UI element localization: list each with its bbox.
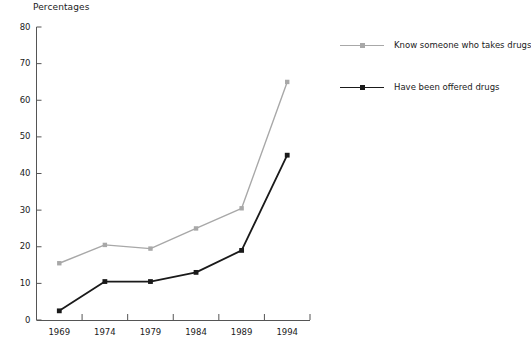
y-axis-tick-label: 70 (11, 58, 31, 68)
y-axis-tick-label: 80 (11, 22, 31, 32)
y-axis-tick-label: 10 (11, 278, 31, 288)
x-axis-tick-label: 1969 (37, 327, 81, 337)
x-axis-tick-label: 1979 (128, 327, 172, 337)
legend-marker-square (360, 43, 365, 48)
data-point-marker (194, 270, 199, 275)
data-point-marker (103, 243, 107, 247)
data-point-marker (102, 279, 107, 284)
y-axis-tick-label: 0 (11, 315, 31, 325)
y-axis-tick-label: 50 (11, 131, 31, 141)
legend-label: Have been offered drugs (394, 82, 500, 92)
series-line (59, 82, 287, 263)
x-axis-tick-label: 1984 (174, 327, 218, 337)
data-point-marker (239, 206, 243, 210)
data-point-marker (194, 226, 198, 230)
legend-marker-square (360, 85, 365, 90)
legend-item[interactable]: Know someone who takes drugs (340, 40, 531, 50)
y-axis-tick-label: 30 (11, 205, 31, 215)
data-point-marker (148, 246, 152, 250)
y-axis-tick-label: 40 (11, 168, 31, 178)
y-axis-tick-label: 60 (11, 95, 31, 105)
data-point-marker (285, 80, 289, 84)
legend-line-swatch (340, 45, 384, 46)
y-axis-tick-label: 20 (11, 241, 31, 251)
data-point-marker (285, 153, 290, 158)
legend-item[interactable]: Have been offered drugs (340, 82, 500, 92)
y-axis-title: Percentages (33, 2, 89, 12)
data-point-marker (57, 261, 61, 265)
data-point-marker (148, 279, 153, 284)
data-point-marker (239, 248, 244, 253)
x-axis-tick-label: 1994 (265, 327, 309, 337)
data-point-marker (57, 308, 62, 313)
legend-line-swatch (340, 87, 384, 88)
x-axis-tick-label: 1974 (83, 327, 127, 337)
legend-label: Know someone who takes drugs (394, 40, 531, 50)
x-axis-tick-label: 1989 (220, 327, 264, 337)
